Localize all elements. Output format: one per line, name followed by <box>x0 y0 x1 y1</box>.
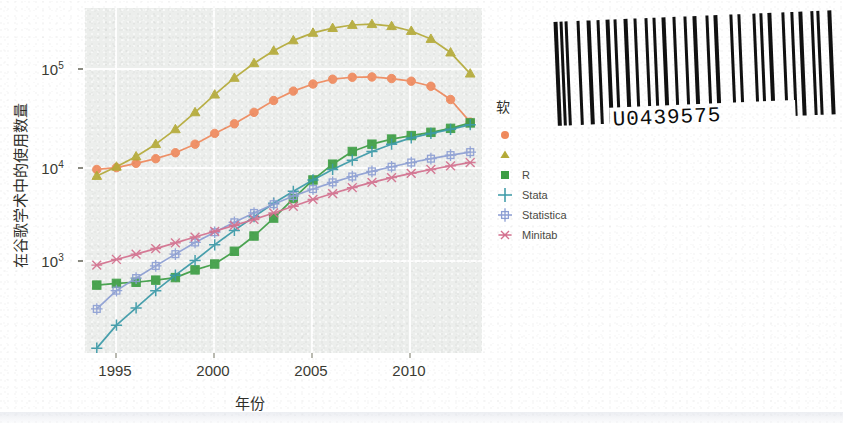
legend-item-stata[interactable]: Stata <box>494 185 604 205</box>
ytick-mark <box>78 68 83 70</box>
legend-key-asterisk-icon <box>494 227 516 243</box>
series-Stata <box>91 119 476 353</box>
xtick-mark <box>213 353 215 358</box>
legend-item-minitab[interactable]: Minitab <box>494 225 604 245</box>
legend-item-label: Statistica <box>522 209 567 221</box>
xtick-mark <box>115 353 117 358</box>
xtick-label-2010: 2010 <box>374 362 444 379</box>
barcode-bar <box>586 20 594 124</box>
x-axis-title: 年份 <box>0 392 500 413</box>
series-Minitab <box>91 158 475 269</box>
series-circle <box>93 73 475 174</box>
xtick-label-1995: 1995 <box>80 362 150 379</box>
scan-edge-band <box>0 412 843 423</box>
legend-item-unlabeled-1[interactable] <box>494 145 604 165</box>
barcode-sticker: U0439575 <box>554 10 841 146</box>
legend-key-triangle-icon <box>494 147 516 163</box>
y-axis-title: 在谷歌学术中的使用数量 <box>9 36 30 336</box>
ytick-mark <box>78 167 83 169</box>
xtick-mark <box>409 353 411 358</box>
series-R <box>93 119 475 290</box>
barcode-bar <box>596 20 603 124</box>
legend-key-plus-icon <box>494 187 516 203</box>
xtick-mark <box>311 353 313 358</box>
legend-item-label: Minitab <box>522 229 557 241</box>
chart-figure: 105 104 103 1995 2000 2005 2010 年份 在谷歌学术… <box>0 0 500 423</box>
barcode-bar <box>577 21 584 125</box>
legend-key-circle-icon <box>494 127 516 143</box>
barcode-bar <box>798 12 806 116</box>
barcode-bar <box>816 11 823 115</box>
legend-item-label: R <box>522 169 530 181</box>
legend-key-square-plus-icon <box>494 207 516 223</box>
legend-key-square-icon <box>494 167 516 183</box>
scanned-chart-page: 105 104 103 1995 2000 2005 2010 年份 在谷歌学术… <box>0 0 843 423</box>
legend-item-r[interactable]: R <box>494 165 604 185</box>
barcode-bar <box>827 10 835 114</box>
series-lines <box>85 8 482 353</box>
legend-item-label: Stata <box>522 189 548 201</box>
ytick-mark <box>78 260 83 262</box>
xtick-label-2005: 2005 <box>276 362 346 379</box>
legend-item-statistica[interactable]: Statistica <box>494 205 604 225</box>
series-triangle <box>92 19 475 179</box>
xtick-label-2000: 2000 <box>178 362 248 379</box>
